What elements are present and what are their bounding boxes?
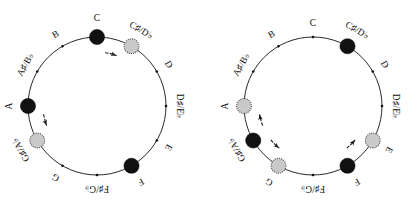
note-label-A♯/B♭: A♯/B♭ xyxy=(15,51,36,78)
note-label-C♯/D♭: C♯/D♭ xyxy=(128,19,155,40)
note-label-D: D xyxy=(379,59,391,70)
note-label-G♯/A♭: G♯/A♭ xyxy=(10,136,31,163)
note-label-B: B xyxy=(266,28,277,40)
note-label-A: A xyxy=(220,102,230,109)
note-node-gray-E[interactable] xyxy=(365,133,380,148)
right-circle-ring-group xyxy=(244,37,382,175)
note-node-black-A[interactable] xyxy=(20,98,35,113)
note-label-D: D xyxy=(163,59,175,70)
left-circle-ring-group xyxy=(28,37,166,175)
pitch-class-circles-figure: CC♯/D♭DD♯/E♭EFF♯/G♭GG♯/A♭AA♯/B♭B CC♯/D♭D… xyxy=(0,0,417,210)
note-label-E: E xyxy=(383,145,395,155)
motion-arrowhead-C-to-C♯/D♭ xyxy=(110,51,117,57)
motion-arrowhead-A-to-G♯/A♭ xyxy=(42,119,48,126)
note-node-black-F[interactable] xyxy=(340,158,355,173)
note-label-D♯/E♭: D♯/E♭ xyxy=(175,94,185,118)
right-circle-arrows xyxy=(257,114,356,149)
note-node-black-G♯/A♭[interactable] xyxy=(246,133,261,148)
note-label-F: F xyxy=(136,176,146,187)
note-node-gray-G[interactable] xyxy=(271,158,286,173)
left-circle-ticks xyxy=(36,45,167,176)
note-label-C: C xyxy=(94,13,100,23)
note-label-C♯/D♭: C♯/D♭ xyxy=(344,19,371,40)
right-circle-ticks xyxy=(252,36,383,176)
note-node-black-C♯/D♭[interactable] xyxy=(340,39,355,54)
note-node-black-F[interactable] xyxy=(124,158,139,173)
note-label-G♯/A♭: G♯/A♭ xyxy=(226,136,247,163)
circle-tick-F♯/G♭ xyxy=(312,174,314,176)
circle-tick-F♯/G♭ xyxy=(96,174,98,176)
note-label-F: F xyxy=(352,176,362,187)
circle-tick-D♯/E♭ xyxy=(165,105,167,107)
note-label-C: C xyxy=(310,18,316,28)
note-node-gray-C♯/D♭[interactable] xyxy=(124,39,139,54)
note-node-gray-G♯/A♭[interactable] xyxy=(30,133,45,148)
right-circle-nodes xyxy=(237,39,381,174)
note-label-E: E xyxy=(163,142,175,152)
left-circle-svg: CC♯/D♭DD♯/E♭EFF♯/G♭GG♯/A♭AA♯/B♭B xyxy=(0,0,209,210)
note-label-G: G xyxy=(263,176,274,188)
left-circle-arrows xyxy=(42,51,117,126)
note-label-A♯/B♭: A♯/B♭ xyxy=(231,51,252,78)
note-label-G: G xyxy=(50,172,61,184)
left-circle-nodes xyxy=(20,29,139,173)
right-circle-panel: CC♯/D♭DD♯/E♭EFF♯/G♭GG♯/A♭AA♯/B♭B xyxy=(208,0,417,210)
note-label-B: B xyxy=(50,28,61,40)
circle-tick-D♯/E♭ xyxy=(381,105,383,107)
note-node-gray-A[interactable] xyxy=(237,99,252,114)
note-label-D♯/E♭: D♯/E♭ xyxy=(391,94,401,118)
circle-ring xyxy=(244,37,382,175)
right-circle-svg: CC♯/D♭DD♯/E♭EFF♯/G♭GG♯/A♭AA♯/B♭B xyxy=(208,0,417,210)
note-node-black-C[interactable] xyxy=(89,29,104,44)
circle-tick-C xyxy=(312,36,314,38)
note-label-A: A xyxy=(4,102,14,109)
circle-ring xyxy=(28,37,166,175)
left-circle-panel: CC♯/D♭DD♯/E♭EFF♯/G♭GG♯/A♭AA♯/B♭B xyxy=(0,0,209,210)
note-label-F♯/G♭: F♯/G♭ xyxy=(85,184,109,194)
note-label-F♯/G♭: F♯/G♭ xyxy=(301,184,325,194)
